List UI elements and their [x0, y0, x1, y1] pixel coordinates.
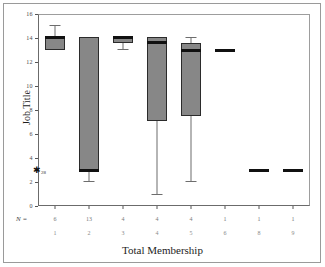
x-axis-tick [191, 206, 192, 209]
median-line [79, 169, 99, 172]
whisker-cap-lower [84, 181, 95, 182]
y-axis-tick-label: 16 [26, 11, 33, 17]
whisker-cap-lower [186, 181, 197, 182]
y-axis-tick [35, 206, 38, 207]
single-value-marker [249, 169, 269, 172]
x-axis-tick [293, 206, 294, 209]
whisker-cap-lower [152, 194, 163, 195]
x-axis-tick [259, 206, 260, 209]
y-axis-tick-label: 12 [26, 59, 33, 65]
x-axis-tick [89, 206, 90, 209]
whisker-cap-upper [50, 25, 61, 26]
x-axis-category-label: 4 [156, 230, 159, 236]
outlier-case-label: 28 [41, 170, 46, 175]
y-axis-tick-label: 6 [30, 131, 33, 137]
whisker-upper [55, 25, 56, 36]
single-value-marker [215, 49, 235, 52]
group-count-label: 1 [258, 216, 261, 222]
x-axis-category-label: 3 [122, 230, 125, 236]
y-axis-tick-label: 8 [30, 107, 33, 113]
median-line [113, 36, 133, 39]
figure-container: Job Title Total Membership N = 024681012… [0, 0, 325, 267]
y-axis-tick-label: 10 [26, 83, 33, 89]
whisker-cap-upper [186, 37, 197, 38]
n-row-legend: N = [16, 215, 27, 223]
whisker-cap-lower [118, 49, 129, 50]
median-line [147, 41, 167, 44]
y-axis-tick [35, 86, 38, 87]
y-axis-tick-label: 4 [30, 155, 33, 161]
y-axis-tick [35, 14, 38, 15]
median-line [181, 49, 201, 52]
y-axis-tick [35, 158, 38, 159]
x-axis-tick [123, 206, 124, 209]
outlier-marker: ✱ [33, 166, 41, 175]
x-axis-tick [55, 206, 56, 209]
single-value-marker [283, 169, 303, 172]
whisker-lower [157, 121, 158, 194]
x-axis-tick [225, 206, 226, 209]
x-axis-category-label: 5 [190, 230, 193, 236]
box-plot-box [79, 37, 99, 170]
x-axis-category-label: 2 [88, 230, 91, 236]
group-count-label: 6 [54, 216, 57, 222]
x-axis-title: Total Membership [0, 244, 325, 256]
median-line [45, 36, 65, 39]
y-axis-tick [35, 182, 38, 183]
box-plot-box [181, 43, 201, 116]
whisker-lower [191, 116, 192, 181]
group-count-label: 4 [122, 216, 125, 222]
group-count-label: 4 [156, 216, 159, 222]
y-axis-tick [35, 62, 38, 63]
y-axis-tick-label: 14 [26, 35, 33, 41]
x-axis-tick [157, 206, 158, 209]
x-axis-category-label: 6 [224, 230, 227, 236]
x-axis-category-label: 8 [258, 230, 261, 236]
y-axis-tick [35, 110, 38, 111]
x-axis-category-label: 9 [292, 230, 295, 236]
y-axis-tick [35, 134, 38, 135]
group-count-label: 1 [292, 216, 295, 222]
x-axis-category-label: 1 [54, 230, 57, 236]
group-count-label: 1 [224, 216, 227, 222]
group-count-label: 4 [190, 216, 193, 222]
box-plot-box [147, 37, 167, 121]
y-axis-tick-label: 0 [30, 203, 33, 209]
y-axis-tick-label: 2 [30, 179, 33, 185]
group-count-label: 13 [86, 216, 92, 222]
y-axis-tick [35, 38, 38, 39]
